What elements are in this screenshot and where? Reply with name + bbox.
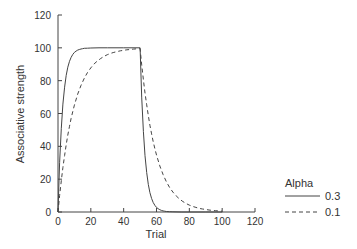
legend: Alpha 0.3 0.1: [285, 177, 340, 218]
y-tick-label: 20: [40, 174, 52, 185]
plot-lines: [58, 48, 222, 212]
series-line-0.1: [58, 49, 222, 212]
legend-label-0.1: 0.1: [325, 206, 340, 218]
x-tick-label: 60: [151, 216, 163, 227]
legend-label-0.3: 0.3: [325, 190, 340, 202]
x-tick-label: 20: [85, 216, 97, 227]
x-tick-label: 80: [184, 216, 196, 227]
series-line-0.3: [58, 48, 222, 212]
x-tick-label: 40: [118, 216, 130, 227]
y-tick-label: 100: [34, 43, 51, 54]
x-tick-label: 0: [55, 216, 61, 227]
x-tick-label: 120: [247, 216, 264, 227]
line-chart: 020406080100120020406080100120 Trial Ass…: [0, 0, 357, 249]
x-axis-label: Trial: [146, 228, 167, 240]
y-tick-label: 60: [40, 109, 52, 120]
legend-title: Alpha: [285, 177, 314, 189]
y-tick-label: 0: [45, 207, 51, 218]
x-tick-label: 100: [214, 216, 231, 227]
y-axis-label: Associative strength: [14, 65, 26, 163]
y-tick-label: 120: [34, 10, 51, 21]
y-tick-label: 40: [40, 141, 52, 152]
y-tick-label: 80: [40, 76, 52, 87]
